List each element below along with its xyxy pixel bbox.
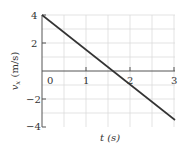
tick-y-neg4: −4 [26, 121, 41, 132]
tick-x-2: 2 [127, 75, 133, 86]
tick-y-2: 2 [31, 38, 37, 49]
tick-y-neg2: −2 [26, 94, 41, 105]
velocity-line [42, 15, 175, 120]
velocity-time-chart: 4 2 −2 −4 0 1 2 3 t (s) vx (m/s) [0, 0, 185, 146]
tick-x-3: 3 [171, 75, 177, 86]
axes [42, 15, 175, 127]
svg-text:vx (m/s): vx (m/s) [9, 52, 22, 91]
tick-x-0: 0 [47, 75, 53, 86]
x-axis-label: t (s) [100, 132, 120, 143]
y-axis-label: vx (m/s) [9, 52, 22, 91]
tick-y-4: 4 [31, 10, 37, 21]
tick-x-1: 1 [83, 75, 89, 86]
